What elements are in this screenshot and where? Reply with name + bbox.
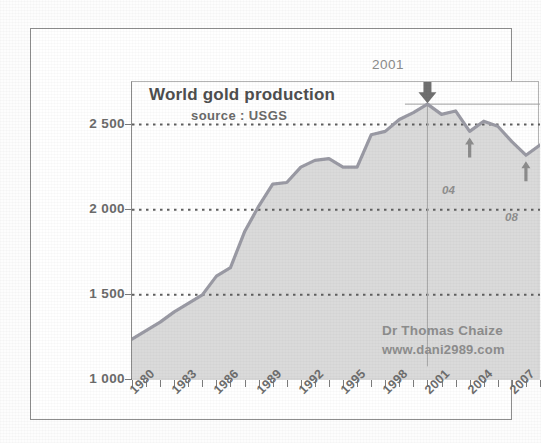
x-axis-tick-mark [329, 380, 330, 387]
y-axis-tick-label: 2 000 [63, 202, 125, 216]
y-axis-tick-label: 1 500 [63, 287, 125, 301]
x-axis-tick-mark [245, 380, 246, 387]
x-axis-tick-mark [413, 380, 414, 387]
y-axis-tick-labels: 1 0001 5002 0002 500 [55, 81, 125, 379]
y-axis-tick-label: 1 000 [63, 372, 125, 386]
x-axis-tick-mark [287, 380, 288, 387]
y-axis-tick-mark [125, 379, 132, 380]
x-axis-tick-mark [498, 380, 499, 387]
screenshot-canvas: 1 0001 5002 0002 500 [0, 0, 541, 443]
chart-outer-frame: 1 0001 5002 0002 500 [30, 28, 512, 420]
x-axis-tick-labels: 1980198319861989199219951998200120042007 [131, 387, 541, 443]
credit-author-name: Dr Thomas Chaize [382, 321, 505, 341]
credit-website-url: www.dani2989.com [382, 341, 505, 360]
x-axis-tick-mark [371, 380, 372, 387]
peak-year-annotation: 2001 [372, 57, 404, 72]
chart-source-label: source : USGS [191, 108, 287, 123]
x-axis-tick-mark [456, 380, 457, 387]
minimum-2004-annotation: 04 [442, 184, 455, 196]
chart-title: World gold production [149, 85, 335, 105]
x-axis-tick-mark [202, 380, 203, 387]
y-axis-tick-label: 2 500 [63, 117, 125, 131]
minimum-2008-annotation: 08 [505, 211, 518, 223]
x-axis-tick-mark [160, 380, 161, 387]
credit-watermark: Dr Thomas Chaize www.dani2989.com [382, 321, 505, 359]
